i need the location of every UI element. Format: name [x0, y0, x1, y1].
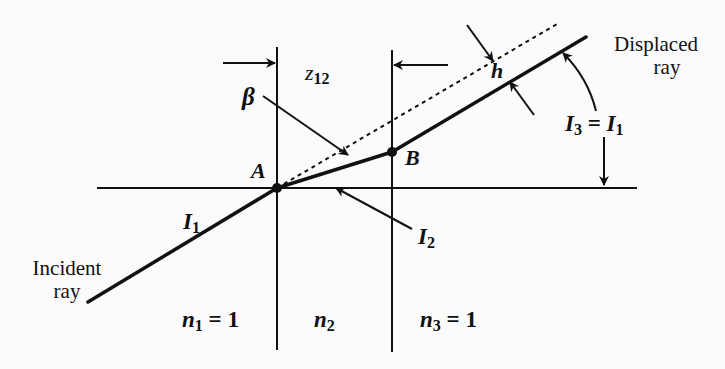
incident-ray-label-line2: ray — [24, 281, 110, 302]
incident-ray-label: Incident ray — [24, 258, 110, 302]
incident-ray-line — [88, 188, 277, 302]
h-top-arrow — [467, 25, 493, 61]
optics-diagram: z12 β A B h I1 I2 I3 = I1 n1 = 1 n2 n3 =… — [0, 0, 725, 369]
incident-ray-label-line1: Incident — [24, 258, 110, 279]
i1-label: I1 — [183, 210, 200, 236]
beta-label: β — [242, 84, 255, 109]
z12-label: z12 — [305, 62, 330, 87]
i2-label: I2 — [418, 225, 435, 251]
i3-equals-i1-label: I3 = I1 — [565, 112, 624, 138]
n3-label: n3 = 1 — [420, 308, 477, 334]
refracted-ray-line — [277, 152, 392, 188]
displaced-ray-label: Displaced ray — [600, 34, 712, 78]
i2-pointer-arrow — [336, 188, 412, 229]
point-a-label: A — [251, 160, 266, 182]
point-b-label: B — [405, 147, 420, 169]
point-a-dot — [272, 183, 282, 193]
h-bottom-arrow — [510, 82, 534, 115]
beta-pointer-arrow — [263, 96, 348, 155]
point-b-dot — [387, 147, 397, 157]
displaced-ray-label-line1: Displaced — [600, 34, 712, 55]
displaced-ray-label-line2: ray — [600, 57, 712, 78]
i3-arc-arrow — [563, 53, 596, 111]
h-label: h — [491, 60, 503, 82]
n2-label: n2 — [314, 308, 335, 334]
n1-label: n1 = 1 — [182, 308, 239, 334]
